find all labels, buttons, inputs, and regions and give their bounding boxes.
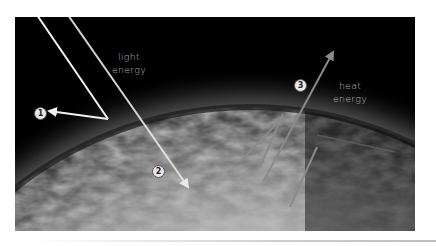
diagram-graphic	[15, 17, 415, 231]
light-energy-label: light energy	[112, 50, 146, 76]
heat-energy-line2: energy	[333, 92, 367, 105]
light-energy-line1: light	[112, 50, 146, 63]
heat-energy-line1: heat	[333, 79, 367, 92]
greenhouse-diagram: light energy heat energy 1 2 3	[15, 17, 415, 231]
marker-3: 3	[294, 79, 307, 92]
marker-1: 1	[34, 107, 47, 120]
light-energy-line2: energy	[112, 63, 146, 76]
light-arrow-reflected	[37, 17, 108, 119]
heat-energy-label: heat energy	[333, 79, 367, 105]
bottom-divider	[30, 240, 436, 242]
marker-2: 2	[152, 165, 165, 178]
